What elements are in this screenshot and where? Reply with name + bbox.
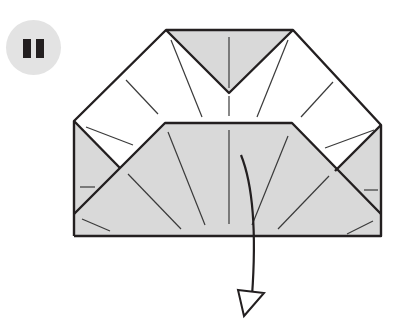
origami-diagram (0, 0, 399, 332)
